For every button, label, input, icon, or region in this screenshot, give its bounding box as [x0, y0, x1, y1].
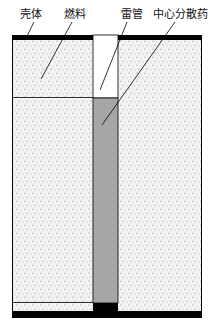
label-fuel: 燃料 — [64, 9, 86, 21]
bottom-plug — [93, 303, 118, 313]
detonator — [93, 35, 118, 98]
label-detonator: 雷管 — [121, 9, 143, 21]
label-shell: 壳体 — [20, 9, 42, 21]
fae-diagram — [0, 0, 213, 327]
leader-shell — [27, 22, 34, 36]
central-charge — [93, 98, 118, 303]
label-central-charge: 中心分散药 — [153, 9, 208, 21]
